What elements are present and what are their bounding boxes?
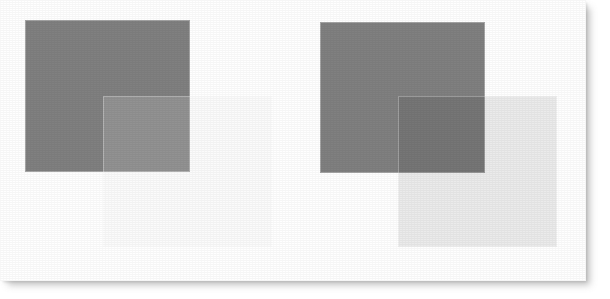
- page-sheet: [0, 0, 586, 281]
- multiply-blend-example: [320, 22, 557, 247]
- right-light-square-fill: [398, 96, 557, 247]
- left-light-square-fill: [103, 96, 272, 247]
- left-light-square: [103, 96, 272, 247]
- figure-canvas: [0, 0, 610, 299]
- normal-blend-example: [25, 20, 272, 247]
- right-light-square: [398, 96, 557, 247]
